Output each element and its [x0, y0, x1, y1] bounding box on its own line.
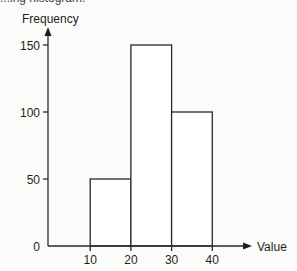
y-axis-arrow-icon [45, 27, 52, 36]
histogram-bar [90, 179, 131, 246]
x-axis-arrow-icon [243, 243, 252, 250]
histogram-bar [131, 45, 172, 246]
histogram-bars [90, 45, 212, 246]
histogram-bar [172, 112, 213, 246]
x-tick-label: 10 [84, 253, 98, 267]
y-axis-label: Frequency [22, 12, 79, 26]
histogram-chart: 050100150 10203040 Frequency Value [0, 0, 297, 271]
x-tick-label: 30 [165, 253, 179, 267]
y-ticks: 050100150 [20, 39, 48, 254]
y-tick-label: 150 [20, 39, 40, 53]
y-tick-label: 100 [20, 106, 40, 120]
x-axis-label: Value [257, 240, 287, 254]
x-tick-label: 40 [206, 253, 220, 267]
x-tick-label: 20 [124, 253, 138, 267]
x-ticks: 10203040 [84, 246, 220, 267]
y-tick-label: 0 [33, 240, 40, 254]
y-tick-label: 50 [27, 173, 41, 187]
